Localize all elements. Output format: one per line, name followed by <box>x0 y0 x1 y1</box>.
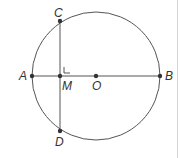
label-o: O <box>92 79 101 93</box>
label-d: D <box>55 135 64 149</box>
point-d <box>58 129 62 133</box>
label-a: A <box>18 69 27 83</box>
point-m <box>58 74 62 78</box>
circle-diagram: A B C D M O <box>0 0 187 158</box>
label-b: B <box>165 69 173 83</box>
point-o <box>94 74 98 78</box>
label-c: C <box>54 6 63 20</box>
point-a <box>30 74 34 78</box>
right-angle-mark <box>64 67 70 73</box>
point-b <box>158 74 162 78</box>
label-m: M <box>62 79 72 93</box>
